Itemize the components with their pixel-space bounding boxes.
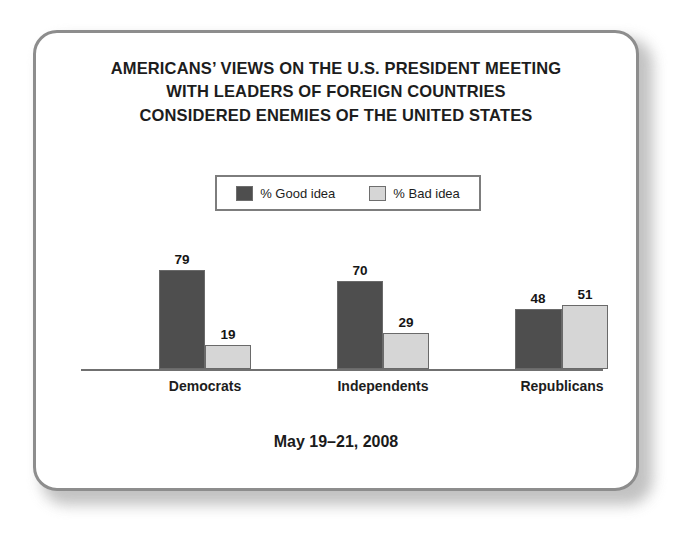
bar-group-republicans: 48 51 xyxy=(515,243,608,369)
chart-title-line-1: AMERICANS’ VIEWS ON THE U.S. PRESIDENT M… xyxy=(36,57,636,80)
bar-value-independents-bad-idea: 29 xyxy=(376,315,436,330)
legend-item-good-idea: % Good idea xyxy=(236,186,335,201)
legend-item-bad-idea: % Bad idea xyxy=(369,186,460,201)
bar-group-democrats: 79 19 xyxy=(159,243,251,369)
chart-image: AMERICANS’ VIEWS ON THE U.S. PRESIDENT M… xyxy=(0,0,680,539)
chart-legend: % Good idea % Bad idea xyxy=(215,175,481,211)
chart-title-line-2: WITH LEADERS OF FOREIGN COUNTRIES xyxy=(36,80,636,103)
legend-swatch-good-idea xyxy=(236,186,253,201)
bar-value-democrats-bad-idea: 19 xyxy=(198,327,258,342)
survey-date-footer: May 19–21, 2008 xyxy=(36,433,636,451)
legend-label-good-idea: % Good idea xyxy=(260,186,335,201)
bar-independents-bad-idea xyxy=(383,333,429,369)
plot-area: 79 19 70 29 48 51 xyxy=(81,243,603,371)
category-axis-labels: Democrats Independents Republicans xyxy=(81,378,603,400)
chart-title: AMERICANS’ VIEWS ON THE U.S. PRESIDENT M… xyxy=(36,57,636,127)
chart-title-line-3: CONSIDERED ENEMIES OF THE UNITED STATES xyxy=(36,104,636,127)
legend-label-bad-idea: % Bad idea xyxy=(393,186,460,201)
bar-value-democrats-good-idea: 79 xyxy=(152,252,212,267)
legend-swatch-bad-idea xyxy=(369,186,386,201)
bar-democrats-good-idea xyxy=(159,270,205,369)
axis-baseline xyxy=(81,369,603,371)
bar-value-republicans-bad-idea: 51 xyxy=(555,287,615,302)
bar-value-independents-good-idea: 70 xyxy=(330,263,390,278)
bar-republicans-good-idea xyxy=(515,309,562,369)
category-label-democrats: Democrats xyxy=(130,378,280,394)
category-label-independents: Independents xyxy=(308,378,458,394)
bar-republicans-bad-idea xyxy=(562,305,608,369)
chart-card: AMERICANS’ VIEWS ON THE U.S. PRESIDENT M… xyxy=(33,30,639,491)
bar-democrats-bad-idea xyxy=(205,345,251,369)
bar-group-independents: 70 29 xyxy=(337,243,429,369)
category-label-republicans: Republicans xyxy=(487,378,637,394)
